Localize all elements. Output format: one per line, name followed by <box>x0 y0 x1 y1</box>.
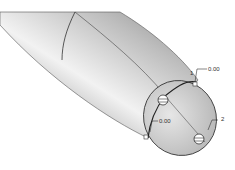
point-index-label: 1 <box>190 70 193 76</box>
drag-handle[interactable] <box>194 134 204 144</box>
drag-handle[interactable] <box>158 95 168 105</box>
point-marker[interactable] <box>144 135 148 139</box>
point-index-label: 2 <box>221 116 224 122</box>
offset-value-label[interactable]: 0.00 <box>159 118 171 124</box>
cad-viewport[interactable] <box>0 0 235 170</box>
offset-value-label[interactable]: 0.00 <box>208 66 220 72</box>
point-marker[interactable] <box>193 82 197 86</box>
